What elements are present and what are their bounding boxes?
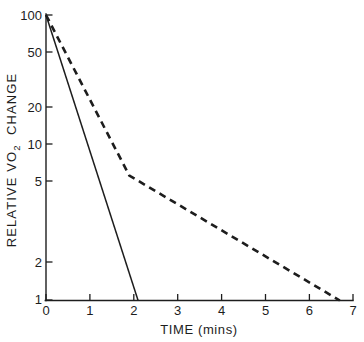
- y-axis-tick-labels: 100 50 20 10 5 2 1: [20, 8, 42, 307]
- x-tick-label-5: 5: [262, 303, 269, 318]
- y-tick-label-20: 20: [28, 100, 42, 115]
- y-tick-label-2: 2: [35, 255, 42, 270]
- x-tick-label-2: 2: [130, 303, 137, 318]
- series-solid-curve: [46, 15, 138, 301]
- x-axis-title: TIME (mins): [160, 322, 237, 337]
- x-tick-label-6: 6: [306, 303, 313, 318]
- x-axis-ticks: [46, 294, 353, 301]
- x-tick-label-3: 3: [174, 303, 181, 318]
- y-tick-label-1: 1: [35, 292, 42, 307]
- x-tick-label-4: 4: [218, 303, 225, 318]
- y-tick-label-100: 100: [20, 8, 42, 23]
- y-axis-title-suffix-text: CHANGE: [4, 73, 19, 135]
- y-axis-ticks: [46, 15, 53, 300]
- svg-text:RELATIVE VO2 CHANGE: RELATIVE VO2 CHANGE: [4, 73, 22, 247]
- series-dashed-curve: [46, 15, 340, 301]
- y-tick-label-50: 50: [28, 45, 42, 60]
- x-axis-tick-labels: 0 1 2 3 4 5 6 7: [42, 303, 356, 318]
- vo2-decay-log-chart: 100 50 20 10 5 2 1 0 1 2 3 4 5 6: [0, 0, 364, 342]
- data-series-group: [46, 15, 340, 301]
- y-axis-title-prefix: RELATIVE VO: [4, 151, 19, 247]
- y-tick-label-5: 5: [35, 174, 42, 189]
- y-tick-label-10: 10: [28, 137, 42, 152]
- x-tick-label-7: 7: [349, 303, 356, 318]
- y-axis-title-suffix: [4, 135, 19, 144]
- y-axis-title: RELATIVE VO2 CHANGE: [4, 73, 22, 247]
- x-tick-label-0: 0: [42, 303, 49, 318]
- x-tick-label-1: 1: [86, 303, 93, 318]
